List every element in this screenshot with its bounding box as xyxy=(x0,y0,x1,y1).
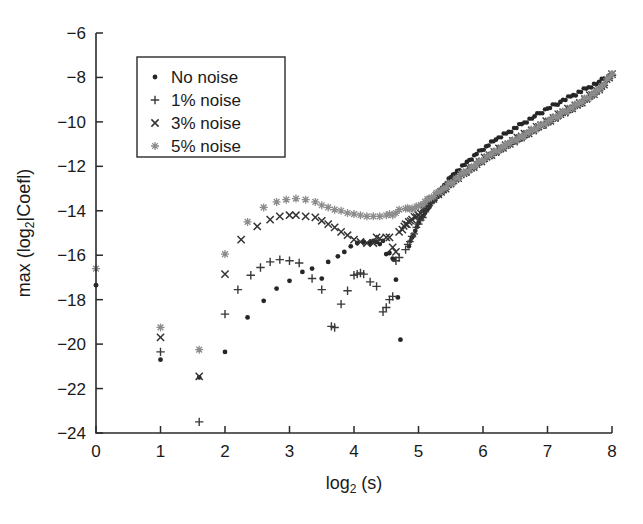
data-point-dot xyxy=(223,349,228,354)
data-point-asterisk xyxy=(244,218,252,226)
data-point-dot xyxy=(504,131,508,135)
data-point-dot xyxy=(581,86,585,90)
data-point-dot xyxy=(556,103,560,107)
data-point-asterisk xyxy=(331,206,339,214)
legend-label: 1% noise xyxy=(171,91,241,110)
data-point-dot xyxy=(245,315,250,320)
data-point-dot xyxy=(569,94,573,98)
data-point-dot xyxy=(486,143,490,147)
data-point-dot xyxy=(563,98,567,102)
legend[interactable]: No noise1% noise3% noise5% noise xyxy=(137,57,285,157)
legend-label: 5% noise xyxy=(171,137,241,156)
x-tick-label: 4 xyxy=(349,442,358,461)
data-point-dot xyxy=(153,75,158,80)
data-point-dot xyxy=(574,93,578,97)
data-point-asterisk xyxy=(157,323,165,331)
data-point-asterisk xyxy=(395,206,403,214)
data-point-dot xyxy=(579,90,583,94)
data-point-dot xyxy=(530,116,534,120)
data-point-dot xyxy=(517,122,521,126)
data-point-dot xyxy=(158,357,163,362)
data-point-asterisk xyxy=(593,86,600,93)
data-point-asterisk xyxy=(470,163,477,170)
data-point-dot xyxy=(348,244,353,249)
data-point-asterisk xyxy=(260,203,268,211)
y-tick-label: −12 xyxy=(57,157,86,176)
data-point-dot xyxy=(543,107,547,111)
data-point-dot xyxy=(548,106,552,110)
y-tick-label: −20 xyxy=(57,335,86,354)
data-point-dot xyxy=(491,139,495,143)
data-point-asterisk xyxy=(606,74,613,81)
y-tick-label: −6 xyxy=(67,24,86,43)
data-point-dot xyxy=(287,278,292,283)
scatter-plot: 012345678−6−8−10−12−14−16−18−20−22−24log… xyxy=(0,0,643,524)
data-point-dot xyxy=(394,277,399,282)
x-tick-label: 3 xyxy=(285,442,294,461)
data-point-dot xyxy=(310,266,315,271)
data-point-asterisk xyxy=(302,196,310,204)
data-point-dot xyxy=(342,249,347,254)
x-tick-label: 8 xyxy=(607,442,616,461)
x-tick-label: 6 xyxy=(478,442,487,461)
y-tick-label: −14 xyxy=(57,202,86,221)
data-point-asterisk xyxy=(221,250,229,258)
data-point-asterisk xyxy=(350,210,358,218)
data-point-asterisk xyxy=(195,346,203,354)
y-tick-label: −24 xyxy=(57,424,86,443)
data-point-asterisk xyxy=(292,195,300,203)
data-point-asterisk xyxy=(419,201,426,208)
data-point-dot xyxy=(499,135,503,139)
data-point-dot xyxy=(274,286,279,291)
data-point-asterisk xyxy=(344,209,352,217)
data-point-dot xyxy=(482,148,486,152)
y-tick-label: −22 xyxy=(57,380,86,399)
data-point-dot xyxy=(514,126,518,130)
data-point-dot xyxy=(472,153,476,157)
data-point-dot xyxy=(509,130,513,134)
data-point-asterisk xyxy=(273,198,281,206)
data-point-dot xyxy=(261,298,266,303)
legend-label: No noise xyxy=(171,68,238,87)
y-tick-label: −10 xyxy=(57,113,86,132)
y-tick-label: −8 xyxy=(67,68,86,87)
x-tick-label: 5 xyxy=(414,442,423,461)
data-point-dot xyxy=(398,337,403,342)
x-tick-label: 2 xyxy=(220,442,229,461)
data-point-dot xyxy=(300,269,305,274)
data-point-asterisk xyxy=(376,212,384,220)
y-axis-title: max (log2|Coefl) xyxy=(14,169,37,297)
figure-container: 012345678−6−8−10−12−14−16−18−20−22−24log… xyxy=(0,0,643,524)
y-tick-label: −18 xyxy=(57,291,86,310)
legend-label: 3% noise xyxy=(171,114,241,133)
data-point-asterisk xyxy=(151,142,159,150)
data-point-asterisk xyxy=(356,211,364,219)
data-point-dot xyxy=(540,111,544,115)
x-tick-label: 0 xyxy=(91,442,100,461)
data-point-asterisk xyxy=(282,196,290,204)
data-point-dot xyxy=(525,120,529,124)
data-point-asterisk xyxy=(554,113,561,120)
data-point-dot xyxy=(589,85,593,89)
x-tick-label: 7 xyxy=(543,442,552,461)
data-point-dot xyxy=(326,259,331,264)
x-tick-label: 1 xyxy=(156,442,165,461)
y-tick-label: −16 xyxy=(57,246,86,265)
data-point-dot xyxy=(335,254,340,259)
data-point-dot xyxy=(319,276,324,281)
